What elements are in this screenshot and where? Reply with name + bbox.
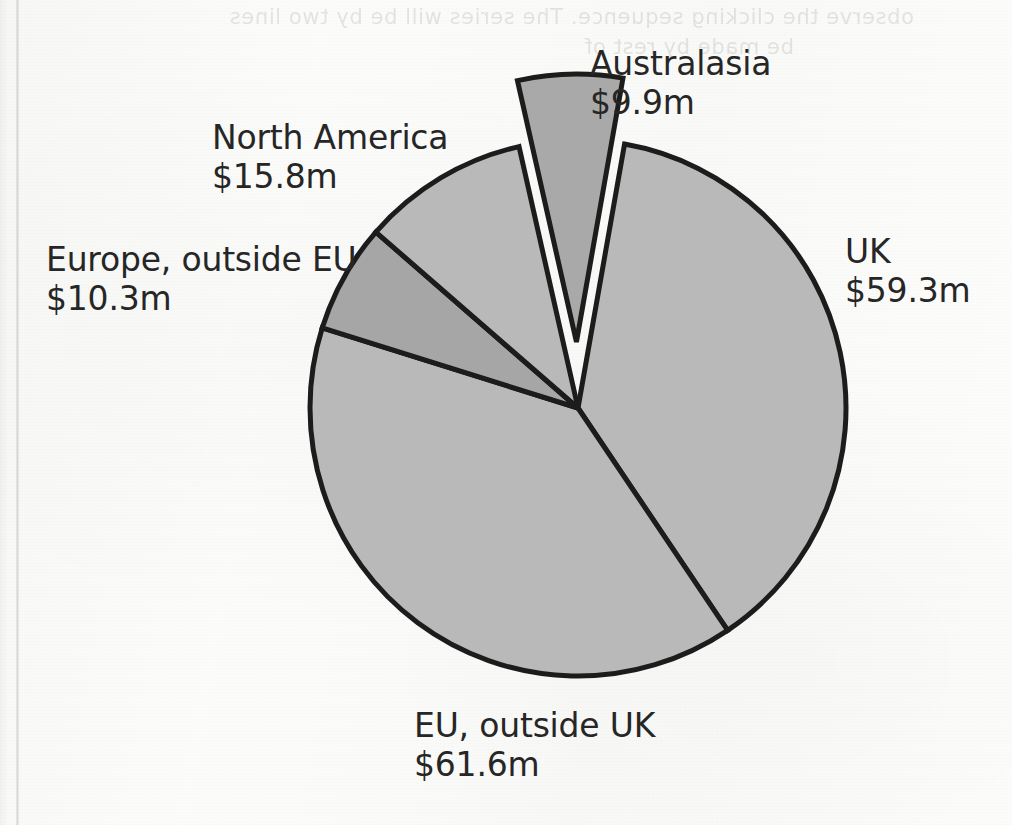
slice-label-europe-outside-eu: Europe, outside EU $10.3m (46, 240, 357, 318)
slice-label-north-america-value: $15.8m (212, 157, 448, 196)
slice-label-uk: UK $59.3m (845, 232, 970, 310)
slice-label-australasia-value: $9.9m (590, 83, 771, 122)
slice-label-australasia: Australasia $9.9m (590, 44, 771, 122)
pie-chart-svg (0, 0, 1012, 825)
slice-label-north-america-name: North America (212, 118, 448, 157)
pie-chart: Australasia $9.9m North America $15.8m E… (0, 0, 1012, 825)
slice-label-uk-value: $59.3m (845, 271, 970, 310)
slice-label-europe-outside-eu-name: Europe, outside EU (46, 240, 357, 279)
slice-label-north-america: North America $15.8m (212, 118, 448, 196)
slice-label-eu-outside-uk-name: EU, outside UK (414, 706, 655, 745)
slice-label-europe-outside-eu-value: $10.3m (46, 279, 357, 318)
slice-label-eu-outside-uk: EU, outside UK $61.6m (414, 706, 655, 784)
slice-label-uk-name: UK (845, 232, 890, 271)
slice-label-eu-outside-uk-value: $61.6m (414, 745, 655, 784)
slice-label-australasia-name: Australasia (590, 44, 771, 83)
